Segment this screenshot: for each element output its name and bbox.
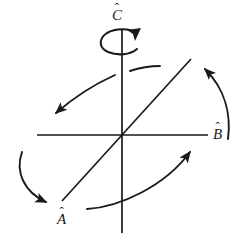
upper-left-rotation-arrow xyxy=(56,75,115,113)
lower-left-rotation-arrow xyxy=(20,152,46,202)
lower-right-rotation-arrow xyxy=(87,152,190,209)
c-axis-hat-accent: ˆ xyxy=(115,1,119,14)
a-axis-hat-accent: ˆ xyxy=(59,205,63,218)
a-axis-line xyxy=(62,59,191,201)
b-axis-hat-accent: ˆ xyxy=(215,120,219,133)
c-axis-label: ˆ C xyxy=(112,8,122,23)
upper-left-rotation-arrow-tail xyxy=(130,66,160,71)
c-axis-spin-arrowhead xyxy=(127,28,141,41)
figure-canvas: ˆ C ˆ B ˆ A xyxy=(0,0,242,243)
a-axis-label: ˆ A xyxy=(57,212,66,227)
axes-diagram-svg xyxy=(0,0,242,243)
b-axis-label: ˆ B xyxy=(213,127,222,142)
